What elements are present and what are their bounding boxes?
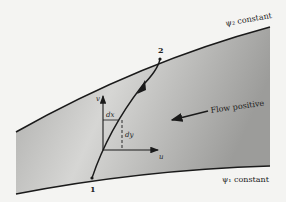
point-2-marker [158,57,161,60]
dx-label: dx [106,111,114,119]
u-axis-label: u [159,153,164,161]
psi1-label: ψ₁ constant [222,175,270,184]
dy-label: dy [125,131,134,139]
psi2-label: ψ₂ constant [225,11,274,28]
flow-diagram: ψ₂ constant ψ₁ constant 1 2 Flow positiv… [0,0,286,202]
point-1-label: 1 [90,184,96,194]
point-1-marker [90,176,93,179]
point-2-label: 2 [158,45,164,55]
v-axis-label: v [96,95,100,103]
